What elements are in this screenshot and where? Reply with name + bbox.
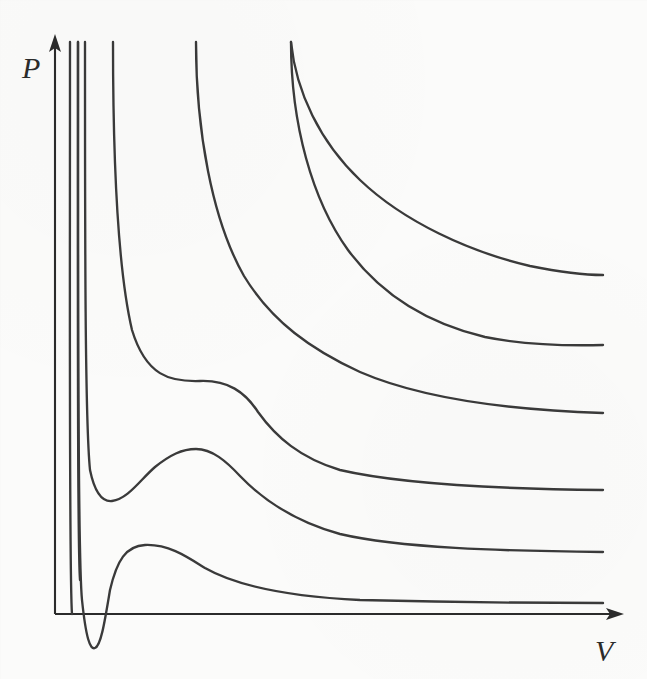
isotherm-curve-isotherm-6-highest (291, 42, 603, 275)
pv-diagram-svg: P V (0, 0, 647, 679)
isotherm-curve-isotherm-4 (196, 42, 603, 413)
isotherm-curve-isotherm-2 (85, 42, 603, 552)
asymptote-line-1 (70, 42, 72, 614)
isotherm-curves-group (78, 42, 603, 648)
y-axis-label: P (21, 51, 40, 84)
x-axis-label: V (595, 634, 617, 667)
isotherm-curve-isotherm-1-lowest (78, 42, 603, 648)
pv-isotherm-figure: P V (0, 0, 647, 679)
isotherm-curve-isotherm-5 (291, 42, 603, 345)
